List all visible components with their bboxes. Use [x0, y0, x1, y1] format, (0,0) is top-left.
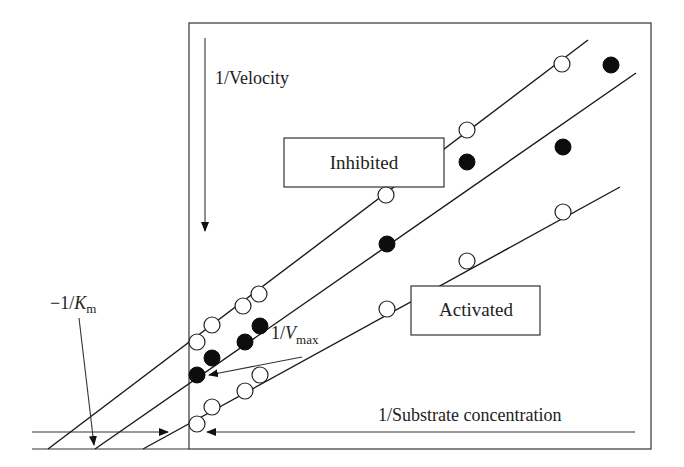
- km-letter: K: [73, 293, 87, 313]
- lineweaver-burk-plot: Inhibited Activated 1/Velocity 1/Substra…: [0, 0, 684, 467]
- x-axis-label: 1/Substrate concentration: [378, 405, 561, 425]
- filled-data-point: [237, 334, 253, 350]
- open-data-point: [189, 416, 205, 432]
- inhibited-label-box: Inhibited: [284, 138, 444, 187]
- km-intercept-label: −1/Km: [50, 293, 96, 316]
- data-points: [189, 56, 619, 432]
- filled-data-point: [379, 236, 395, 252]
- open-data-point: [204, 317, 220, 333]
- y-axis-label: 1/Velocity: [215, 68, 289, 88]
- open-data-point: [189, 334, 205, 350]
- km-pointer-arrow: [79, 318, 94, 445]
- inhibited-line: [48, 40, 588, 449]
- open-data-point: [555, 204, 571, 220]
- activated-label: Activated: [439, 299, 513, 320]
- km-prefix: −1/: [50, 293, 74, 313]
- km-subscript: m: [86, 301, 96, 316]
- open-data-point: [459, 253, 475, 269]
- open-data-point: [204, 399, 220, 415]
- open-data-point: [554, 56, 570, 72]
- activated-label-box: Activated: [411, 286, 540, 335]
- vmax-prefix: 1/: [271, 323, 285, 343]
- open-data-point: [252, 367, 268, 383]
- open-data-point: [235, 298, 251, 314]
- control-line: [95, 73, 636, 449]
- filled-data-point: [252, 318, 268, 334]
- vmax-subscript: max: [296, 332, 319, 347]
- open-data-point: [378, 187, 394, 203]
- open-data-point: [379, 301, 395, 317]
- filled-data-point: [603, 57, 619, 73]
- inhibited-label: Inhibited: [330, 152, 399, 173]
- open-data-point: [459, 122, 475, 138]
- filled-data-point: [204, 350, 220, 366]
- open-data-point: [237, 383, 253, 399]
- vmax-intercept-label: 1/Vmax: [271, 323, 319, 347]
- filled-data-point: [555, 139, 571, 155]
- filled-data-point: [189, 367, 205, 383]
- open-data-point: [251, 286, 267, 302]
- filled-data-point: [459, 154, 475, 170]
